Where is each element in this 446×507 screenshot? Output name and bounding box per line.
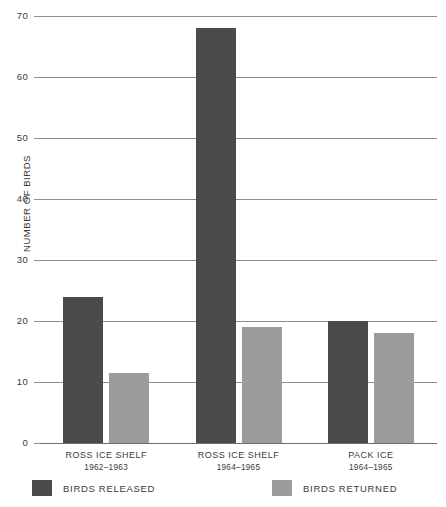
y-axis-tick (34, 443, 40, 444)
y-axis-tick (34, 16, 40, 17)
y-axis-tick (34, 382, 40, 383)
y-axis-tick (34, 321, 40, 322)
category-label: PACK ICE1964–1965 (305, 450, 437, 473)
y-axis-tick-label: 60 (6, 71, 28, 82)
category-years: 1964–1965 (172, 462, 304, 474)
legend-item-birds-returned: BIRDS RETURNED (272, 480, 397, 496)
bar-chart: NUMBER OF BIRDS 010203040506070 ROSS ICE… (0, 0, 446, 507)
legend-swatch-returned-icon (272, 480, 292, 496)
y-axis-tick (34, 199, 40, 200)
y-axis-tick-label: 70 (6, 10, 28, 21)
legend-label-released: BIRDS RELEASED (63, 483, 155, 494)
gridline (40, 443, 437, 444)
y-axis-tick-label: 0 (6, 437, 28, 448)
gridline (40, 77, 437, 78)
legend-label-returned: BIRDS RETURNED (303, 483, 397, 494)
category-label: ROSS ICE SHELF1964–1965 (172, 450, 304, 473)
category-years: 1964–1965 (305, 462, 437, 474)
category-years: 1962–1963 (40, 462, 172, 474)
gridline (40, 138, 437, 139)
gridline (40, 260, 437, 261)
bar-returned (242, 327, 282, 443)
bar-released (328, 321, 368, 443)
y-axis-tick-label: 10 (6, 376, 28, 387)
y-axis-tick (34, 138, 40, 139)
y-axis-tick-label: 30 (6, 254, 28, 265)
y-axis-tick-label: 40 (6, 193, 28, 204)
category-name: ROSS ICE SHELF (172, 450, 304, 462)
y-axis-tick-label: 20 (6, 315, 28, 326)
legend-swatch-released-icon (32, 480, 52, 496)
bar-released (196, 28, 236, 443)
y-axis-tick (34, 77, 40, 78)
y-axis-tick (34, 260, 40, 261)
bar-returned (109, 373, 149, 443)
chart-legend: BIRDS RELEASED BIRDS RETURNED (0, 480, 446, 504)
category-name: ROSS ICE SHELF (40, 450, 172, 462)
gridline (40, 16, 437, 17)
category-name: PACK ICE (305, 450, 437, 462)
legend-item-birds-released: BIRDS RELEASED (32, 480, 155, 496)
plot-area (40, 16, 437, 443)
bar-released (63, 297, 103, 443)
bar-returned (374, 333, 414, 443)
y-axis-tick-label: 50 (6, 132, 28, 143)
gridline (40, 199, 437, 200)
category-label: ROSS ICE SHELF1962–1963 (40, 450, 172, 473)
